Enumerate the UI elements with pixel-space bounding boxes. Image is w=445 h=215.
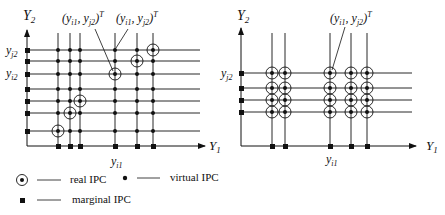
right-x-axis-label: Y1 xyxy=(426,138,438,155)
left-real-ipcs xyxy=(52,44,159,137)
ipc-diagram: Y2 Y1 yj2 yi2 yi1 (yi1, yj2)T (yi1, yj2)… xyxy=(0,0,445,215)
right-panel xyxy=(241,27,416,146)
legend: real IPC virtual IPC marginal IPC xyxy=(17,171,219,205)
left-marginal-ipcs xyxy=(25,48,156,149)
left-x-axis-label: Y1 xyxy=(209,138,221,155)
svg-text:virtual IPC: virtual IPC xyxy=(170,171,219,183)
right-marginal-ipcs xyxy=(239,71,370,149)
left-y-tick-yj2: yj2 xyxy=(5,43,18,59)
virtual-ipc-icon xyxy=(123,176,127,180)
svg-text:real IPC: real IPC xyxy=(70,173,106,185)
svg-text:marginal IPC: marginal IPC xyxy=(72,193,131,205)
left-y-tick-yi2: yi2 xyxy=(5,66,18,82)
left-y-axis-label: Y2 xyxy=(23,8,36,25)
right-y-tick-yj2: yj2 xyxy=(220,66,233,82)
left-annotation-1: (yi1, yj2)T xyxy=(62,10,104,27)
right-leader xyxy=(332,27,345,70)
left-x-tick-yi1: yi1 xyxy=(110,154,123,170)
marginal-ipc-icon xyxy=(20,198,25,203)
left-annotation-2: (yi1, yj2)T xyxy=(116,10,158,27)
right-real-ipcs xyxy=(266,67,373,118)
legend-real-ipc: real IPC xyxy=(17,173,107,186)
legend-marginal-ipc: marginal IPC xyxy=(20,193,131,205)
left-leader-2 xyxy=(116,29,128,48)
legend-virtual-ipc: virtual IPC xyxy=(123,171,219,183)
right-x-tick-yi1: yi1 xyxy=(325,152,338,168)
right-annotation: (yi1, yj2)T xyxy=(330,10,372,27)
right-y-axis-label: Y2 xyxy=(237,8,250,25)
